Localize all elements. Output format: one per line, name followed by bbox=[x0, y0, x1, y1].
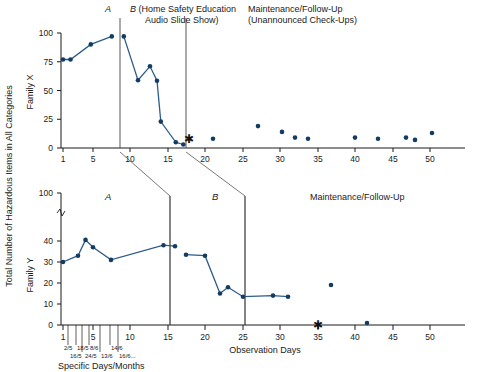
panel-y-xtick-35: 35 bbox=[313, 332, 323, 342]
panel-y-series-b-line bbox=[186, 255, 288, 297]
panel-y-series-a-line bbox=[63, 240, 175, 262]
panel-y-ytick-0: 0 bbox=[48, 320, 53, 330]
panel-family-y: A B Maintenance/Follow-Up 0 10 20 30 40 … bbox=[25, 188, 465, 371]
specific-day-24-5: 24/5 bbox=[85, 353, 97, 359]
panel-y-series-maintenance-points bbox=[329, 283, 370, 326]
panel-x-x-ticks: 1 5 10 15 20 25 30 35 40 45 50 bbox=[61, 148, 435, 164]
panel-y-xtick-45: 45 bbox=[388, 332, 398, 342]
x-axis-label: Observation Days bbox=[229, 345, 301, 355]
panel-x-xtick-15: 15 bbox=[163, 154, 173, 164]
panel-x-xtick-30: 30 bbox=[275, 154, 285, 164]
panel-y-specific-days-lower-labels: 16/5 24/5 13/6 16/6... bbox=[70, 353, 136, 359]
panel-x-xtick-20: 20 bbox=[200, 154, 210, 164]
panel-y-ytick-30: 30 bbox=[44, 257, 54, 267]
panel-y-star-marker: ✱ bbox=[313, 318, 323, 332]
panel-x-star-marker: ✱ bbox=[184, 132, 194, 146]
panel-x-ytick-75: 75 bbox=[44, 57, 54, 67]
panel-x-xtick-35: 35 bbox=[313, 154, 323, 164]
panel-y-xtick-5: 5 bbox=[91, 332, 96, 342]
figure-container: Total Number of Hazardous Items in All C… bbox=[0, 0, 480, 372]
panel-y-maintenance-title: Maintenance/Follow-Up bbox=[310, 192, 405, 202]
panel-y-series-label: Family Y bbox=[25, 258, 35, 293]
specific-day-13-6: 13/6 bbox=[101, 353, 113, 359]
y-axis-label: Total Number of Hazardous Items in All C… bbox=[4, 85, 14, 287]
panel-y-xtick-20: 20 bbox=[200, 332, 210, 342]
panel-y-xtick-25: 25 bbox=[238, 332, 248, 342]
panel-y-phase-b-title: B bbox=[212, 191, 219, 202]
specific-day-14-6: 14/6 bbox=[111, 345, 123, 351]
panel-y-series-b-points bbox=[184, 252, 291, 299]
panel-x-series-maintenance-points bbox=[211, 124, 435, 142]
panel-family-x: A B (Home Safety Education Audio Slide S… bbox=[25, 4, 465, 164]
panel-x-ytick-50: 50 bbox=[44, 86, 54, 96]
specific-day-18-5: 18/5 bbox=[77, 345, 89, 351]
panel-y-xtick-1: 1 bbox=[61, 332, 66, 342]
panel-y-series-a-points bbox=[61, 238, 178, 265]
panel-x-ytick-25: 25 bbox=[44, 114, 54, 124]
panel-x-phase-b-title-line2: Audio Slide Show) bbox=[145, 15, 219, 25]
panel-x-series-a-line bbox=[63, 36, 112, 59]
panel-x-xtick-45: 45 bbox=[388, 154, 398, 164]
panel-y-ytick-10: 10 bbox=[44, 299, 54, 309]
panel-x-xtick-10: 10 bbox=[125, 154, 135, 164]
panel-x-phase-a-title: A bbox=[104, 4, 111, 14]
panel-x-maintenance-title: Maintenance/Follow-Up bbox=[248, 4, 343, 14]
panel-x-ytick-100: 100 bbox=[39, 28, 53, 38]
panel-x-xtick-5: 5 bbox=[91, 154, 96, 164]
scientific-figure: Total Number of Hazardous Items in All C… bbox=[0, 0, 480, 372]
panel-x-xtick-40: 40 bbox=[350, 154, 360, 164]
panel-x-xtick-50: 50 bbox=[425, 154, 435, 164]
panel-x-maintenance-subtitle: (Unannounced Check-Ups) bbox=[248, 15, 357, 25]
panel-y-x-ticks: 1 5 10 15 20 25 30 35 40 45 50 bbox=[61, 325, 435, 342]
panel-x-y-ticks: 0 25 50 75 100 bbox=[39, 28, 61, 153]
secondary-x-axis-label: Specific Days/Months bbox=[58, 361, 145, 371]
specific-day-16-5: 16/5 bbox=[70, 353, 82, 359]
panel-x-ytick-0: 0 bbox=[48, 143, 53, 153]
panel-y-specific-days-upper-labels: 2/5 18/5 8/6 14/6 bbox=[64, 345, 123, 351]
panel-y-xtick-50: 50 bbox=[425, 332, 435, 342]
panel-y-xtick-40: 40 bbox=[350, 332, 360, 342]
panel-x-series-b-line bbox=[124, 36, 184, 144]
panel-y-phase-a-title: A bbox=[104, 191, 111, 202]
panel-x-phase-b-title: B (Home Safety Education bbox=[130, 4, 236, 14]
panel-y-xtick-30: 30 bbox=[275, 332, 285, 342]
panel-y-ytick-40: 40 bbox=[44, 236, 54, 246]
panel-y-xtick-15: 15 bbox=[163, 332, 173, 342]
panel-y-xtick-10: 10 bbox=[125, 332, 135, 342]
panel-y-y-ticks: 0 10 20 30 40 100 bbox=[39, 188, 61, 330]
panel-x-xtick-25: 25 bbox=[238, 154, 248, 164]
panel-x-series-b-points bbox=[122, 34, 186, 147]
specific-day-2-5: 2/5 bbox=[64, 345, 73, 351]
phase-connector-lines bbox=[120, 152, 245, 325]
specific-day-8-6: 8/6 bbox=[90, 345, 99, 351]
panel-x-series-label: Family X bbox=[25, 74, 35, 109]
panel-y-ytick-100: 100 bbox=[39, 188, 53, 198]
specific-day-16-6: 16/6... bbox=[119, 353, 136, 359]
panel-y-ytick-20: 20 bbox=[44, 278, 54, 288]
panel-x-xtick-1: 1 bbox=[61, 154, 66, 164]
